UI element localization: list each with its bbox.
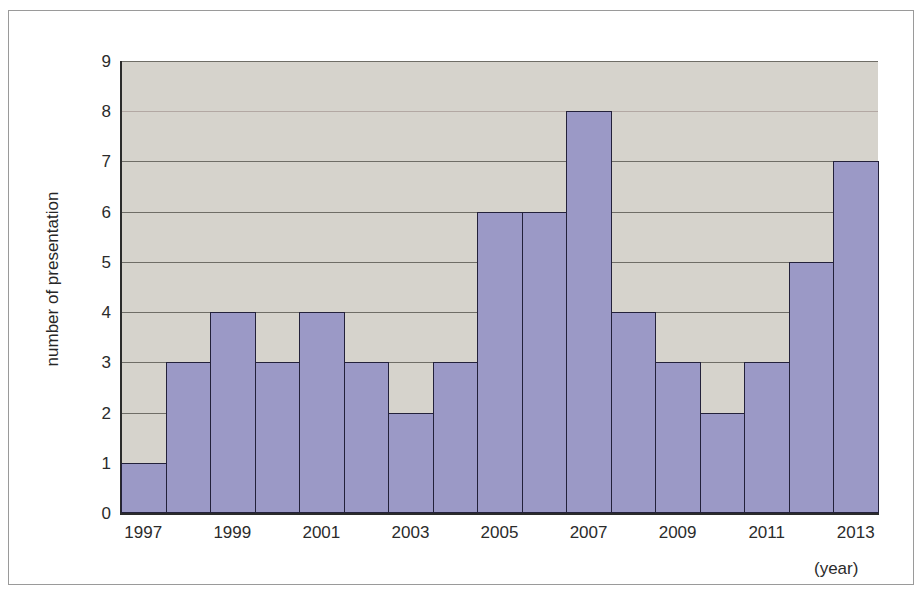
x-tick-label: 2005 bbox=[460, 523, 540, 543]
bar bbox=[789, 262, 835, 513]
y-axis-ticks: 0123456789 bbox=[81, 61, 111, 513]
y-tick-label: 3 bbox=[87, 354, 111, 371]
bar bbox=[255, 362, 301, 513]
bar bbox=[121, 463, 167, 513]
bar bbox=[833, 161, 879, 513]
x-tick-label: 2009 bbox=[638, 523, 718, 543]
bar bbox=[433, 362, 479, 513]
x-tick-label: 1997 bbox=[103, 523, 183, 543]
bar bbox=[166, 362, 212, 513]
bar bbox=[522, 212, 568, 513]
bars-group bbox=[121, 61, 878, 513]
y-axis-title: number of presentation bbox=[43, 149, 63, 409]
bar bbox=[344, 362, 390, 513]
bar bbox=[566, 111, 612, 513]
bar bbox=[210, 312, 256, 513]
x-tick-label: 1999 bbox=[192, 523, 272, 543]
y-tick-label: 1 bbox=[87, 455, 111, 472]
bar bbox=[700, 413, 746, 513]
y-tick-label: 2 bbox=[87, 405, 111, 422]
x-axis-ticks: 199719992001200320052007200920112013 bbox=[121, 523, 878, 551]
x-tick-label: 2013 bbox=[816, 523, 896, 543]
y-tick-label: 4 bbox=[87, 304, 111, 321]
x-tick-label: 2011 bbox=[727, 523, 807, 543]
x-tick-label: 2001 bbox=[281, 523, 361, 543]
bar bbox=[655, 362, 701, 513]
y-tick-label: 5 bbox=[87, 254, 111, 271]
bar bbox=[299, 312, 345, 513]
x-axis-unit-label: (year) bbox=[814, 559, 858, 579]
y-tick-label: 6 bbox=[87, 204, 111, 221]
bar bbox=[388, 413, 434, 513]
x-tick-label: 2003 bbox=[370, 523, 450, 543]
bar bbox=[744, 362, 790, 513]
bar bbox=[611, 312, 657, 513]
bar bbox=[477, 212, 523, 513]
y-tick-label: 8 bbox=[87, 103, 111, 120]
figure-frame: number of presentation 0123456789 199719… bbox=[8, 10, 914, 585]
y-tick-label: 7 bbox=[87, 153, 111, 170]
chart-figure: number of presentation 0123456789 199719… bbox=[0, 0, 924, 599]
y-tick-label: 9 bbox=[87, 53, 111, 70]
y-tick-label: 0 bbox=[87, 505, 111, 522]
x-tick-label: 2007 bbox=[549, 523, 629, 543]
